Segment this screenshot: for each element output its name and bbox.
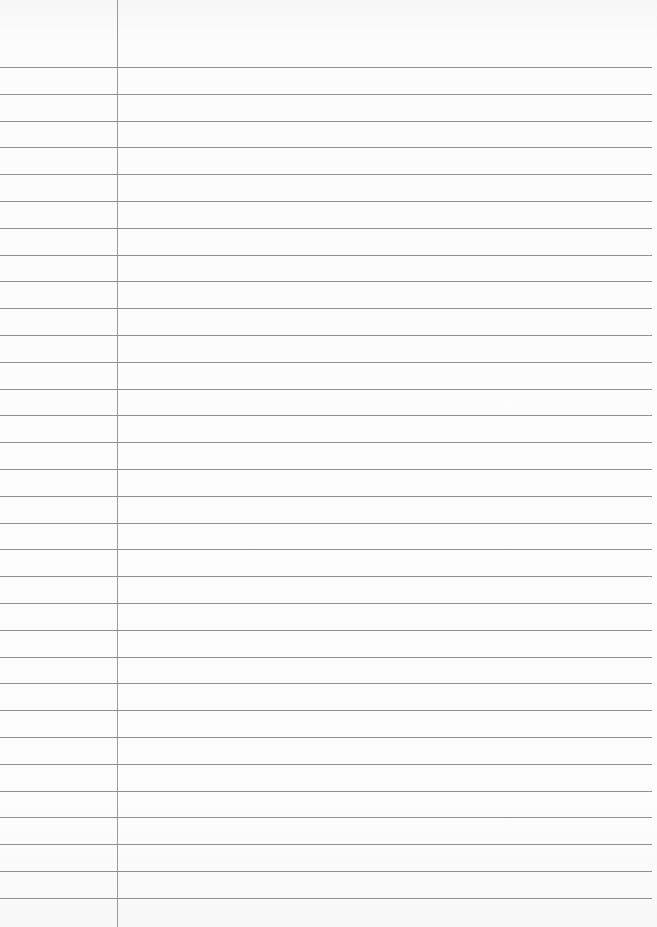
ruled-line xyxy=(0,201,652,202)
ruled-line xyxy=(0,576,652,577)
ruled-line xyxy=(0,174,652,175)
ruled-line xyxy=(0,469,652,470)
ruled-line xyxy=(0,844,652,845)
ruled-line xyxy=(0,683,652,684)
ruled-line xyxy=(0,389,652,390)
ruled-line xyxy=(0,871,652,872)
ruled-line xyxy=(0,362,652,363)
ruled-line xyxy=(0,147,652,148)
lined-paper-sheet xyxy=(0,0,657,927)
ruled-line xyxy=(0,657,652,658)
ruled-line xyxy=(0,764,652,765)
ruled-line xyxy=(0,496,652,497)
ruled-line xyxy=(0,603,652,604)
ruled-line xyxy=(0,281,652,282)
ruled-line xyxy=(0,415,652,416)
ruled-line xyxy=(0,817,652,818)
ruled-line xyxy=(0,228,652,229)
ruled-line xyxy=(0,710,652,711)
ruled-line xyxy=(0,549,652,550)
ruled-line xyxy=(0,898,652,899)
margin-line xyxy=(117,0,118,927)
ruled-line xyxy=(0,308,652,309)
ruled-line xyxy=(0,255,652,256)
ruled-line xyxy=(0,442,652,443)
ruled-line xyxy=(0,630,652,631)
ruled-line xyxy=(0,791,652,792)
ruled-line xyxy=(0,335,652,336)
ruled-line xyxy=(0,737,652,738)
ruled-line xyxy=(0,94,652,95)
ruled-line xyxy=(0,523,652,524)
ruled-line xyxy=(0,67,652,68)
ruled-line xyxy=(0,121,652,122)
